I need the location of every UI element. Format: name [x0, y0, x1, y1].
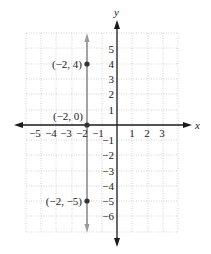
y-axis: y — [113, 6, 120, 247]
coordinate-plane: x y −5 −4 −3 −2 −1 1 2 3 5 4 3 2 1 −1 −2… — [0, 0, 211, 254]
x-axis: x — [14, 119, 200, 131]
x-tick: 1 — [129, 127, 135, 139]
y-tick: −4 — [102, 180, 114, 192]
x-tick: 2 — [144, 127, 150, 139]
point-label: (−2, 0) — [53, 110, 83, 123]
arrow-left-icon — [14, 122, 23, 128]
y-tick: −5 — [102, 195, 114, 207]
point-label: (−2, −5) — [46, 195, 83, 208]
arrow-up-icon — [114, 20, 120, 29]
x-tick: −3 — [60, 127, 72, 139]
y-tick: 3 — [109, 73, 115, 85]
y-tick: −2 — [102, 149, 114, 161]
point-neg2-neg5 — [84, 198, 89, 203]
y-tick: −6 — [102, 210, 114, 222]
x-tick: −5 — [29, 127, 41, 139]
x-tick: −4 — [45, 127, 57, 139]
x-tick-labels: −5 −4 −3 −2 −1 1 2 3 — [29, 127, 165, 139]
y-tick: 1 — [109, 104, 115, 116]
arrow-right-icon — [183, 122, 192, 128]
y-tick: −1 — [102, 134, 114, 146]
y-tick-labels: 5 4 3 2 1 −1 −2 −3 −4 −5 −6 — [102, 43, 114, 222]
y-tick: 2 — [109, 88, 115, 100]
y-axis-label: y — [113, 6, 119, 18]
point-label: (−2, 4) — [52, 58, 82, 71]
y-tick: −3 — [102, 165, 114, 177]
x-axis-label: x — [194, 119, 200, 131]
point-neg2-0 — [84, 122, 89, 127]
y-tick: 4 — [109, 58, 115, 70]
x-tick: −2 — [76, 127, 88, 139]
arrow-down-icon — [114, 238, 120, 247]
arrow-up-icon — [85, 33, 90, 42]
y-tick: 5 — [109, 43, 115, 55]
point-neg2-4 — [84, 61, 89, 66]
x-tick: 3 — [159, 127, 165, 139]
